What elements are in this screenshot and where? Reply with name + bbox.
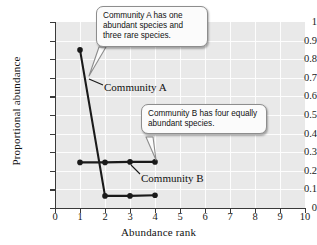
callout-b-tail bbox=[146, 137, 156, 160]
annotation-callout-community-a: Community A has one abundant species and… bbox=[96, 6, 208, 47]
annotation-callout-community-b: Community B has four equally abundant sp… bbox=[141, 104, 267, 134]
leader-line-community-a bbox=[89, 79, 103, 85]
series-community-b bbox=[77, 159, 158, 165]
leader-line-community-b bbox=[131, 165, 140, 174]
series-label-community-b: Community B bbox=[141, 172, 204, 184]
callout-a-tail bbox=[89, 47, 106, 76]
series-label-community-a: Community A bbox=[104, 81, 167, 93]
chart-figure: 1 0.9 0.8 0.7 0.6 0.5 0.4 0.3 0.2 0.1 0 … bbox=[0, 0, 317, 245]
